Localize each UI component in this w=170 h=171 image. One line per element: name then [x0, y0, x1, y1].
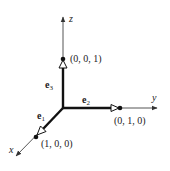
z-axis-label: z: [68, 13, 73, 24]
point-001-label: (0, 0, 1): [70, 53, 102, 65]
point-010: [118, 106, 123, 111]
basis-vector-diagram: z y x e3 e2 e1 (0, 0, 1) (0, 1, 0) (1, 0…: [0, 0, 170, 171]
y-axis-label: y: [151, 92, 157, 103]
point-010-label: (0, 1, 0): [114, 115, 146, 127]
e1-label: e1: [37, 110, 45, 123]
e3-label: e3: [45, 79, 53, 92]
point-001: [61, 57, 66, 62]
e2-label: e2: [82, 94, 90, 107]
x-axis-label: x: [8, 144, 14, 155]
point-100: [34, 135, 39, 140]
point-100-label: (1, 0, 0): [41, 138, 73, 150]
e1-vector: [43, 108, 63, 129]
